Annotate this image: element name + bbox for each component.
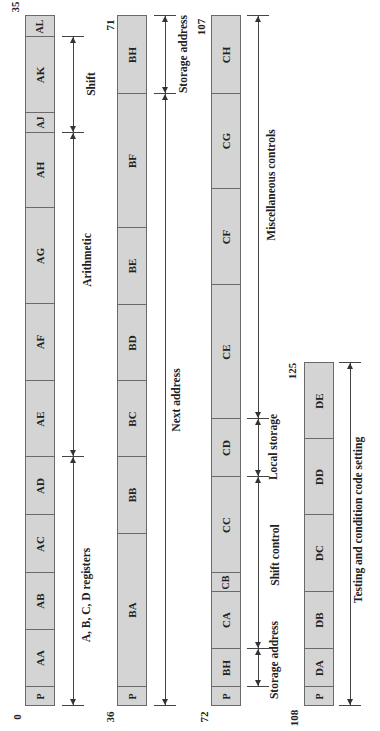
field-label: CF [220, 229, 232, 244]
field-ca: CA [211, 591, 241, 649]
field-p: P [117, 686, 147, 706]
field-label: AF [34, 335, 46, 350]
field-label: CG [220, 133, 232, 150]
field-label: BB [126, 488, 138, 503]
dimension-line [165, 93, 166, 705]
field-ba: BA [117, 533, 147, 687]
dimension-line [350, 362, 351, 705]
field-label: AD [34, 478, 46, 494]
field-label: BD [126, 335, 138, 350]
dimension-line [73, 132, 74, 456]
dimension-line [73, 36, 74, 132]
dimension-label: Next address [169, 368, 181, 431]
field-aj: AJ [25, 112, 55, 133]
field-label: BF [126, 153, 138, 167]
field-cg: CG [211, 93, 241, 189]
dimension-label: Miscellaneous controls [264, 129, 276, 240]
dimension-line [258, 476, 259, 648]
dimension-label: A, B, C, D registers [80, 548, 92, 643]
field-label: AH [34, 162, 46, 179]
field-label: CE [220, 344, 232, 359]
field-label: AE [34, 411, 46, 426]
arrow-down-icon [255, 470, 261, 476]
field-cd: CD [211, 418, 241, 477]
field-db: DB [304, 591, 334, 649]
dimension-tick [339, 705, 361, 706]
arrow-down-icon [255, 680, 261, 686]
arrow-up-icon [70, 37, 76, 43]
field-label: CD [220, 440, 232, 456]
arrow-up-icon [70, 457, 76, 463]
field-da: DA [304, 648, 334, 687]
field-label: AC [34, 536, 46, 552]
field-label: P [34, 693, 45, 699]
arrow-down-icon [255, 642, 261, 648]
field-label: BC [126, 411, 138, 426]
field-ad: AD [25, 456, 55, 515]
word-2-start-bit: 36 [104, 712, 116, 723]
word-4: PDADBDCDDDE [304, 0, 334, 731]
arrow-down-icon [162, 87, 168, 93]
dimension-tick [62, 456, 84, 457]
field-bc: BC [117, 380, 147, 457]
field-label: P [220, 693, 231, 699]
dimension-tick [247, 648, 269, 649]
dimension-tick [247, 686, 269, 687]
field-bh: BH [211, 648, 241, 687]
word-3-start-bit: 72 [198, 712, 210, 723]
field-cc: CC [211, 476, 241, 573]
word-3-end-bit: 107 [195, 19, 207, 36]
field-ah: AH [25, 132, 55, 208]
field-label: P [313, 693, 324, 699]
field-dc: DC [304, 514, 334, 592]
arrow-down-icon [70, 699, 76, 705]
arrow-up-icon [347, 363, 353, 369]
arrow-up-icon [70, 133, 76, 139]
field-label: CH [220, 46, 232, 63]
field-p: P [304, 686, 334, 706]
arrow-up-icon [255, 477, 261, 483]
arrow-up-icon [162, 94, 168, 100]
field-de: DE [304, 362, 334, 439]
field-label: AJ [34, 116, 45, 128]
field-label: AK [34, 66, 46, 83]
field-label: CC [220, 517, 232, 533]
field-aa: AA [25, 629, 55, 687]
dimension-label: Testing and condition code setting [352, 437, 364, 603]
field-ce: CE [211, 284, 241, 419]
word-3: PBHCACBCCCDCECFCGCH [211, 0, 241, 731]
field-ch: CH [211, 15, 241, 94]
field-label: BA [126, 602, 138, 617]
arrow-down-icon [70, 450, 76, 456]
arrow-down-icon [347, 699, 353, 705]
field-label: DD [313, 469, 325, 485]
dimension-line [258, 15, 259, 418]
field-label: BE [126, 259, 138, 274]
word-1: PAAABACADAEAFAGAHAJAKAL [25, 0, 55, 731]
field-label: P [126, 693, 137, 699]
field-label: BH [126, 47, 138, 63]
dimension-tick [62, 705, 84, 706]
field-label: AL [35, 19, 46, 33]
dimension-line [73, 456, 74, 705]
field-label: AG [34, 247, 46, 264]
dimension-line [258, 418, 259, 476]
field-dd: DD [304, 438, 334, 515]
dimension-label: Storage address [177, 15, 189, 93]
field-bb: BB [117, 456, 147, 534]
word-2-end-bit: 71 [104, 20, 116, 31]
field-be: BE [117, 227, 147, 305]
field-ac: AC [25, 514, 55, 573]
field-label: CA [220, 612, 232, 628]
field-ab: AB [25, 572, 55, 630]
arrow-up-icon [255, 649, 261, 655]
dimension-line [165, 15, 166, 93]
field-label: DB [313, 612, 325, 627]
word-4-start-bit: 108 [288, 710, 300, 727]
dimension-label: Local storage [267, 414, 279, 480]
field-label: CB [221, 575, 232, 589]
field-label: AA [34, 650, 46, 666]
word-2: PBABBBCBDBEBFBH [117, 0, 147, 731]
dimension-label: Arithmetic [81, 233, 93, 287]
field-af: AF [25, 303, 55, 381]
